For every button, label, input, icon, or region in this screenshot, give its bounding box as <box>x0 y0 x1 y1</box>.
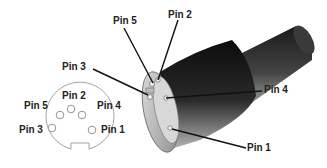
label-face-pin3: Pin 3 <box>19 125 43 135</box>
label-face-pin1: Pin 1 <box>101 125 125 135</box>
label-3d-pin5: Pin 5 <box>113 16 137 26</box>
label-face-pin2: Pin 2 <box>62 91 86 101</box>
label-3d-pin3: Pin 3 <box>62 62 86 72</box>
din-connector-diagram: Pin 5 Pin 2 Pin 3 Pin 4 Pin 1 Pin 2 Pin … <box>0 0 327 168</box>
label-face-pin4: Pin 4 <box>97 101 121 111</box>
label-3d-pin4: Pin 4 <box>264 85 288 95</box>
label-3d-pin1: Pin 1 <box>247 143 271 153</box>
label-3d-pin2: Pin 2 <box>168 10 192 20</box>
label-face-pin5: Pin 5 <box>24 101 48 111</box>
